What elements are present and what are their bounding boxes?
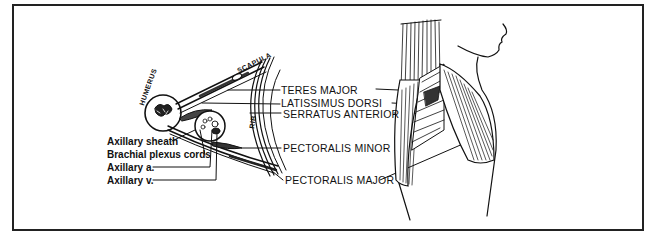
label-teres-major: TERES MAJOR — [281, 85, 358, 96]
label-serratus-anterior: SERRATUS ANTERIOR — [283, 109, 399, 120]
label-latissimus-dorsi: LATISSIMUS DORSI — [281, 98, 382, 109]
shoulder-muscle-figure — [395, 20, 507, 220]
label-axillary-artery: Axillary a. — [107, 163, 154, 173]
label-axillary-sheath: Axillary sheath — [107, 137, 178, 147]
label-pectoralis-minor: PECTORALIS MINOR — [283, 143, 390, 154]
axillary-sheath-diagram — [195, 111, 225, 141]
humerus-cross-section — [145, 95, 181, 131]
label-axillary-vein: Axillary v. — [107, 176, 154, 186]
label-pectoralis-major: PECTORALIS MAJOR — [285, 175, 394, 186]
label-brachial-plexus-cords: Brachial plexus cords — [107, 150, 211, 160]
